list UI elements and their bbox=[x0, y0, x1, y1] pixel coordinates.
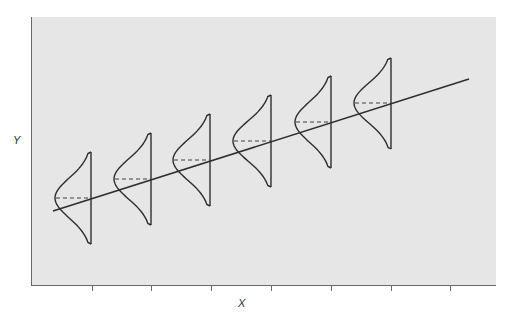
x-axis-label: X bbox=[238, 297, 245, 309]
plot-area bbox=[31, 17, 496, 285]
regression-diagram bbox=[0, 0, 512, 327]
y-axis-label: Y bbox=[13, 134, 20, 146]
